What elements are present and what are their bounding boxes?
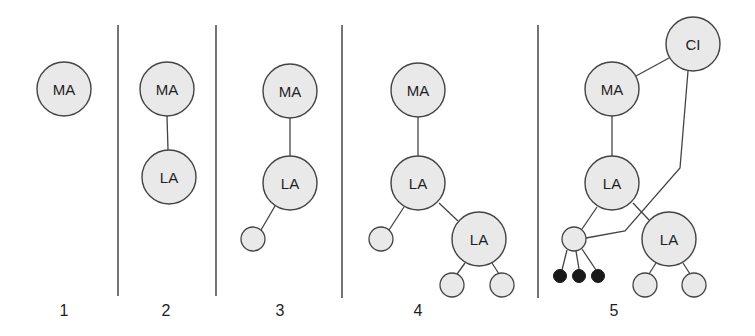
step-label-4: 4 <box>414 302 423 319</box>
step-label-1: 1 <box>60 302 69 319</box>
panel-5: CI MA LA LA 5 <box>554 17 721 319</box>
la-node-child-label: LA <box>470 231 488 248</box>
filled-dot <box>554 270 567 283</box>
edge-la-la <box>439 203 458 221</box>
step-label-5: 5 <box>610 302 619 319</box>
la-node-label: LA <box>281 175 299 192</box>
edge-hub-dot-3 <box>582 249 596 270</box>
step-label-2: 2 <box>162 302 171 319</box>
la-node-label: LA <box>409 175 427 192</box>
la-node-child-label: LA <box>660 231 678 248</box>
edge-la-leaf-left <box>649 263 656 274</box>
ma-node-label: MA <box>279 83 302 100</box>
ma-node-label: MA <box>156 81 179 98</box>
panel-3: MA LA 3 <box>241 64 317 319</box>
ci-node-label: CI <box>686 36 701 53</box>
la-node-label: LA <box>160 169 178 186</box>
leaf-node <box>440 273 464 297</box>
step-label-3: 3 <box>276 302 285 319</box>
filled-dot <box>592 270 605 283</box>
edge-hub-dot-2 <box>576 251 579 269</box>
edge-la-leaf-left <box>457 263 465 274</box>
hub-leaf-node <box>562 227 586 251</box>
panel-2: MA LA 2 <box>140 62 196 319</box>
ma-node-label: MA <box>601 81 624 98</box>
edge-la-leaf-right <box>492 263 499 274</box>
edge-ma-ci <box>636 58 669 76</box>
ma-node-label: MA <box>53 81 76 98</box>
la-node-label: LA <box>603 175 621 192</box>
panel-1: MA 1 <box>37 62 91 319</box>
filled-dot <box>573 270 586 283</box>
leaf-node <box>633 273 657 297</box>
tree-growth-diagram: MA 1 MA LA 2 MA LA 3 MA LA LA 4 <box>0 0 755 336</box>
edge-la-leaf-right <box>683 263 690 274</box>
leaf-node <box>241 227 265 251</box>
leaf-node <box>369 227 393 251</box>
edge-la-leaf <box>261 206 275 230</box>
leaf-node <box>682 273 706 297</box>
edge-hub-dot-1 <box>562 250 567 270</box>
panel-4: MA LA LA 4 <box>369 63 514 319</box>
edge-la-hub <box>582 207 597 229</box>
edge-la-leaf <box>389 207 404 230</box>
edge-ma-la <box>167 116 168 150</box>
leaf-node <box>490 273 514 297</box>
ma-node-label: MA <box>407 82 430 99</box>
